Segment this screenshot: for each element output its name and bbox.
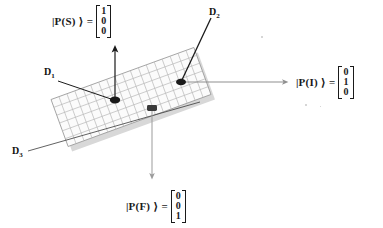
detector-marker-center	[147, 105, 157, 111]
detector-marker-d2	[176, 79, 186, 86]
ket-pf-equals: =	[161, 201, 167, 212]
ket-pf-component-2: 1	[175, 211, 182, 221]
ket-pi-label: |P(I) ⟩	[296, 77, 326, 88]
ket-ps-equals: =	[87, 16, 93, 27]
label-d2: D2	[209, 6, 220, 20]
label-d2-subscript: 2	[216, 12, 220, 20]
detector-marker-d1	[110, 97, 120, 104]
ket-pi-equals: =	[329, 77, 335, 88]
label-d3: D3	[12, 145, 23, 159]
figure-canvas: D1 D2 D3 |P(S) ⟩ = 1 0 0 |P(I) ⟩ = 0 1 0…	[0, 0, 383, 228]
ket-pf-label: |P(F) ⟩	[126, 201, 158, 212]
scan-speck	[261, 36, 263, 38]
scan-speck	[305, 104, 307, 106]
ket-pf-group: |P(F) ⟩ = 0 0 1	[126, 190, 186, 223]
scan-speck	[320, 106, 321, 107]
label-d3-subscript: 3	[19, 151, 23, 159]
ket-pi-group: |P(I) ⟩ = 0 1 0	[296, 66, 354, 99]
label-d1: D1	[44, 66, 55, 80]
ket-pf-vector: 0 0 1	[171, 190, 186, 223]
ket-pi-component-2: 0	[342, 87, 349, 97]
ket-ps-group: |P(S) ⟩ = 1 0 0	[52, 5, 111, 38]
ket-ps-vector: 1 0 0	[96, 5, 111, 38]
ket-ps-component-2: 0	[100, 26, 107, 36]
ket-pi-vector: 0 1 0	[338, 66, 353, 99]
ket-ps-label: |P(S) ⟩	[52, 16, 84, 27]
label-d1-subscript: 1	[51, 72, 55, 80]
